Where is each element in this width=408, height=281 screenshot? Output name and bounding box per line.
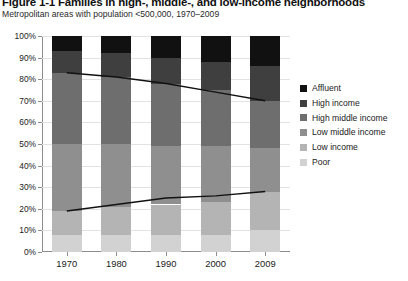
y-tick-mark: [38, 79, 42, 80]
bar-segment[interactable]: [250, 148, 280, 191]
bar-segment[interactable]: [52, 235, 82, 252]
bar-segment[interactable]: [151, 84, 181, 147]
y-tick-mark: [38, 166, 42, 167]
x-axis-tick-label: 1980: [106, 259, 127, 268]
y-tick-mark: [38, 122, 42, 123]
bar-segment[interactable]: [201, 36, 231, 62]
legend-swatch-icon: [300, 129, 307, 136]
y-axis-tick-label: 10%: [19, 226, 36, 234]
bar-segment[interactable]: [101, 144, 131, 207]
y-axis-tick-label: 40%: [19, 161, 36, 169]
y-tick-mark: [38, 36, 42, 37]
bar-segment[interactable]: [101, 53, 131, 77]
x-axis-tick-label: 1970: [56, 259, 77, 268]
figure-title: Figure 1-1 Families in high-, middle-, a…: [2, 0, 365, 8]
bar-segment[interactable]: [250, 66, 280, 101]
x-tick-mark: [216, 252, 217, 256]
legend-item[interactable]: Affluent: [300, 84, 387, 93]
x-axis-tick-label: 2009: [255, 259, 276, 268]
bar-segment[interactable]: [151, 205, 181, 235]
legend-label: High middle income: [312, 114, 387, 123]
bar-segment[interactable]: [250, 101, 280, 149]
bar-segment[interactable]: [201, 146, 231, 202]
bar-segment[interactable]: [101, 207, 131, 235]
bar-segment[interactable]: [201, 62, 231, 90]
y-tick-mark: [38, 187, 42, 188]
bar-segment[interactable]: [201, 90, 231, 146]
bar-segment[interactable]: [151, 58, 181, 84]
legend-swatch-icon: [300, 100, 307, 107]
bar-segment[interactable]: [151, 146, 181, 204]
y-axis-tick-label: 90%: [19, 53, 36, 61]
y-axis-tick-label: 60%: [19, 118, 36, 126]
legend-swatch-icon: [300, 144, 307, 151]
bar-segment[interactable]: [151, 36, 181, 58]
x-tick-mark: [265, 252, 266, 256]
y-axis-tick-label: 0%: [24, 248, 36, 256]
stacked-bar[interactable]: [201, 36, 231, 252]
plot-area: 0%10%20%30%40%50%60%70%80%90%100% 197019…: [42, 36, 290, 252]
stacked-bar[interactable]: [250, 36, 280, 252]
bar-segment[interactable]: [201, 202, 231, 234]
x-axis-tick-label: 2000: [205, 259, 226, 268]
y-tick-mark: [38, 230, 42, 231]
legend-item[interactable]: Poor: [300, 158, 387, 167]
bar-segment[interactable]: [52, 36, 82, 51]
legend-swatch-icon: [300, 114, 307, 121]
legend-item[interactable]: Low income: [300, 143, 387, 152]
y-axis-tick-label: 50%: [19, 140, 36, 148]
bar-segment[interactable]: [101, 77, 131, 144]
x-tick-mark: [67, 252, 68, 256]
y-tick-mark: [38, 209, 42, 210]
bar-segment[interactable]: [101, 36, 131, 53]
legend-item[interactable]: High middle income: [300, 114, 387, 123]
y-tick-mark: [38, 252, 42, 253]
y-tick-mark: [38, 144, 42, 145]
y-axis-tick-label: 80%: [19, 75, 36, 83]
y-tick-mark: [38, 101, 42, 102]
stacked-bar[interactable]: [151, 36, 181, 252]
bar-segment[interactable]: [52, 211, 82, 235]
legend-item[interactable]: High income: [300, 99, 387, 108]
legend-label: Affluent: [312, 84, 341, 93]
y-axis-tick-label: 30%: [19, 183, 36, 191]
bar-segment[interactable]: [201, 235, 231, 252]
bar-segment[interactable]: [250, 230, 280, 252]
chart-legend: AffluentHigh incomeHigh middle incomeLow…: [300, 84, 387, 167]
stacked-bar[interactable]: [52, 36, 82, 252]
legend-label: Low income: [312, 143, 358, 152]
legend-swatch-icon: [300, 159, 307, 166]
y-axis-tick-label: 20%: [19, 205, 36, 213]
legend-swatch-icon: [300, 85, 307, 92]
bar-segment[interactable]: [52, 73, 82, 144]
x-tick-mark: [116, 252, 117, 256]
bar-segment[interactable]: [101, 235, 131, 252]
legend-label: Low middle income: [312, 128, 386, 137]
bar-segment[interactable]: [250, 192, 280, 231]
bar-segment[interactable]: [151, 235, 181, 252]
legend-label: Poor: [312, 158, 330, 167]
y-axis-tick-label: 100%: [15, 32, 36, 40]
figure-subtitle: Metropolitan areas with population <500,…: [2, 9, 219, 19]
figure-container: Figure 1-1 Families in high-, middle-, a…: [0, 0, 408, 281]
y-axis-tick-label: 70%: [19, 97, 36, 105]
bar-segment[interactable]: [52, 144, 82, 211]
bar-segment[interactable]: [52, 51, 82, 73]
x-tick-mark: [166, 252, 167, 256]
bar-segment[interactable]: [250, 36, 280, 66]
legend-label: High income: [312, 99, 360, 108]
x-axis-tick-label: 1990: [156, 259, 177, 268]
y-tick-mark: [38, 58, 42, 59]
legend-item[interactable]: Low middle income: [300, 128, 387, 137]
stacked-bar[interactable]: [101, 36, 131, 252]
